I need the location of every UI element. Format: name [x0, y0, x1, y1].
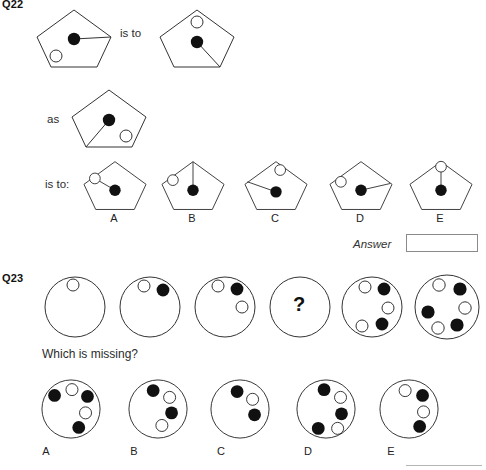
connector-is-to-colon: is to: [45, 178, 69, 190]
question-label-q22: Q22 [2, 0, 23, 10]
q23-missing-marker: ? [293, 293, 305, 316]
q22-option-letter-e: E [430, 212, 450, 224]
q23-prompt: Which is missing? [42, 347, 138, 361]
q22-option-c[interactable] [243, 160, 309, 212]
q23-option-letter-d: D [298, 445, 318, 457]
q23-option-b[interactable] [127, 378, 189, 440]
q22-option-b[interactable] [160, 160, 226, 212]
q23-option-c[interactable] [209, 378, 271, 440]
q22-option-letter-d: D [350, 212, 370, 224]
pentagon-stem-right [158, 8, 236, 70]
q23-option-a[interactable] [40, 378, 102, 440]
q23-option-letter-e: E [381, 445, 401, 457]
pentagon-stem-as [70, 88, 148, 150]
q22-option-a[interactable] [82, 160, 148, 212]
q23-sequence-item-6 [413, 273, 481, 341]
q22-option-letter-b: B [182, 212, 202, 224]
q22-option-d[interactable] [328, 160, 394, 212]
q23-option-d[interactable] [295, 378, 357, 440]
q23-option-letter-a: A [36, 445, 56, 457]
q23-sequence-item-3 [193, 275, 257, 339]
q22-option-letter-a: A [104, 212, 124, 224]
question-label-q23: Q23 [2, 272, 23, 284]
q23-option-e[interactable] [378, 378, 440, 440]
connector-as: as [47, 113, 59, 125]
q23-option-letter-c: C [211, 445, 231, 457]
pentagon-stem-left [35, 8, 113, 70]
answer-input-q22[interactable] [406, 234, 478, 252]
q22-option-e[interactable] [408, 160, 474, 212]
connector-is-to: is to [120, 27, 141, 39]
answer-label: Answer [353, 238, 391, 250]
q23-sequence-item-5 [340, 275, 404, 339]
answer-rule-q23 [406, 465, 482, 466]
q23-sequence-item-1 [43, 275, 107, 339]
q22-option-letter-c: C [265, 212, 285, 224]
q23-sequence-item-2 [118, 275, 182, 339]
q23-option-letter-b: B [124, 445, 144, 457]
